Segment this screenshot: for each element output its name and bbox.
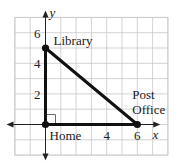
x-tick-label: 4 (103, 128, 110, 143)
y-tick-label: 2 (34, 87, 41, 102)
x-axis-arrow-left-icon (6, 122, 13, 128)
coordinate-plane: x y 46246 Library Home Post Office (0, 0, 181, 163)
x-axis-label: x (152, 127, 159, 142)
post-office-label-line1: Post (132, 87, 155, 102)
home-label: Home (50, 128, 82, 143)
point-post-office (134, 121, 141, 128)
x-tick-label: 6 (134, 128, 141, 143)
y-axis-label: y (48, 5, 56, 20)
point-library (42, 44, 49, 51)
library-label: Library (54, 33, 93, 48)
y-tick-label: 6 (34, 26, 41, 41)
y-axis-arrow-down-icon (43, 153, 49, 160)
y-axis-arrow-up-icon (43, 11, 49, 18)
y-tick-label: 4 (34, 56, 41, 71)
point-home (42, 121, 49, 128)
post-office-label-line2: Office (132, 102, 165, 117)
